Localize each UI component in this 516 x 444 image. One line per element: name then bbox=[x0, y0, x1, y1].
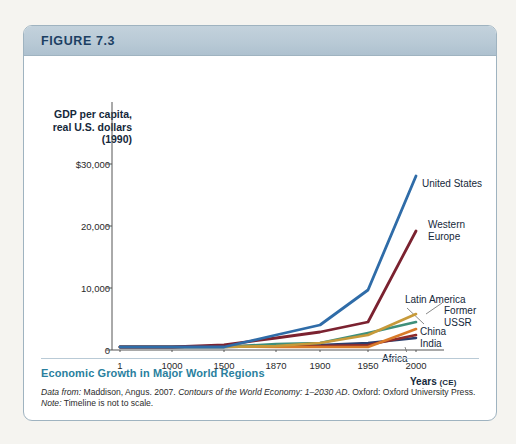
chart-plot-area: GDP per capita, real U.S. dollars (1990)… bbox=[24, 56, 496, 352]
source-text: Maddison, Angus. 2007. bbox=[81, 387, 178, 397]
figure-number-label: FIGURE 7.3 bbox=[41, 34, 115, 48]
figure-caption-title: Economic Growth in Major World Regions bbox=[41, 367, 479, 379]
series-label-united-states: United States bbox=[422, 178, 482, 190]
note-text: Timeline is not to scale. bbox=[62, 398, 154, 408]
chart-svg bbox=[24, 56, 497, 352]
series-label-former-ussr-line2: USSR bbox=[444, 317, 472, 328]
series-label-western-europe-line1: Western bbox=[428, 219, 465, 230]
figure-card: FIGURE 7.3 GDP per capita, real U.S. dol… bbox=[23, 25, 497, 421]
series-line-united-states bbox=[120, 176, 416, 347]
figure-source-note: Data from: Maddison, Angus. 2007. Contou… bbox=[41, 387, 479, 410]
source-prefix: Data from: bbox=[41, 387, 81, 397]
series-label-latin-america: Latin America bbox=[405, 294, 466, 306]
source-italic-title: Contours of the World Economy: 1–2030 AD bbox=[178, 387, 347, 397]
figure-header-bar: FIGURE 7.3 bbox=[24, 26, 496, 56]
series-label-western-europe: Western Europe bbox=[428, 219, 465, 242]
series-label-western-europe-line2: Europe bbox=[428, 231, 460, 242]
series-line-western-europe bbox=[120, 231, 416, 347]
series-label-china: China bbox=[420, 326, 446, 338]
source-tail: . Oxford: Oxford University Press. bbox=[347, 387, 475, 397]
series-label-former-ussr: Former USSR bbox=[444, 305, 476, 328]
caption-divider bbox=[41, 358, 479, 359]
figure-caption-zone: Economic Growth in Major World Regions D… bbox=[24, 358, 496, 420]
note-prefix: Note: bbox=[41, 398, 62, 408]
series-label-india: India bbox=[420, 338, 442, 350]
series-label-former-ussr-line1: Former bbox=[444, 305, 476, 316]
